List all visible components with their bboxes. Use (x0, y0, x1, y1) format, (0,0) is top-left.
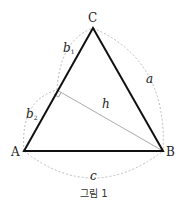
triangle-diagram: C A B a c h b1 b2 그림 1 (0, 0, 187, 209)
vertex-label-b: B (166, 145, 175, 159)
vertex-label-a: A (10, 145, 20, 159)
segment-label-b1: b1 (63, 41, 75, 55)
side-label-a: a (146, 72, 153, 86)
figure-caption: 그림 1 (80, 188, 108, 199)
altitude-label-h: h (102, 97, 110, 111)
segment-label-b2: b2 (26, 107, 38, 121)
triangle-abc (24, 28, 163, 151)
side-label-c: c (90, 169, 97, 183)
altitude-h (57, 90, 163, 151)
vertex-label-c: C (88, 11, 97, 25)
